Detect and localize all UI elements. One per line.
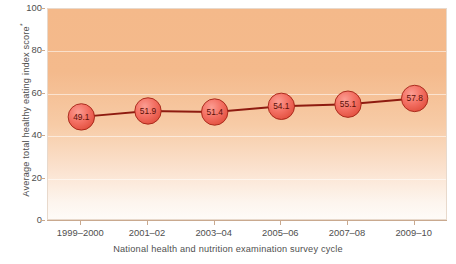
y-tick-label: 80 (16, 45, 42, 54)
x-tick-mark (147, 220, 148, 225)
y-tick-label: 0 (16, 215, 42, 224)
y-tick-mark (41, 50, 45, 51)
plot-area: 49.151.951.454.155.157.8 (47, 8, 447, 220)
data-point-label: 54.1 (273, 101, 290, 111)
y-tick-label: 100 (16, 3, 42, 12)
line-chart: Average total healthy eating index score… (0, 0, 456, 264)
data-point[interactable]: 49.1 (68, 104, 94, 130)
data-point-label: 57.8 (407, 93, 424, 103)
x-tick-mark (214, 220, 215, 225)
series-line (81, 98, 414, 116)
y-tick-mark (41, 8, 45, 9)
y-tick-mark (41, 93, 45, 94)
y-tick-mark (41, 220, 45, 221)
x-axis-title: National health and nutrition examinatio… (0, 244, 456, 254)
y-tick-mark (41, 135, 45, 136)
x-tick-mark (414, 220, 415, 225)
data-point[interactable]: 57.8 (401, 85, 427, 111)
data-point[interactable]: 55.1 (335, 91, 361, 117)
y-tick-label: 60 (16, 88, 42, 97)
data-point-label: 51.9 (140, 106, 157, 116)
data-point[interactable]: 51.9 (135, 98, 161, 124)
y-tick-label: 40 (16, 130, 42, 139)
x-tick-mark (347, 220, 348, 225)
x-tick-mark (280, 220, 281, 225)
data-point[interactable]: 51.4 (201, 99, 227, 125)
x-axis-line (47, 220, 447, 221)
y-tick-label: 20 (16, 173, 42, 182)
data-series-layer: 49.151.951.454.155.157.8 (48, 9, 448, 221)
y-tick-mark (41, 178, 45, 179)
y-axis-ticks: 020406080100 (14, 0, 42, 264)
data-point[interactable]: 54.1 (268, 93, 294, 119)
data-point-label: 55.1 (340, 99, 357, 109)
x-tick-label: 2009–10 (374, 227, 454, 238)
x-tick-mark (80, 220, 81, 225)
data-point-label: 51.4 (207, 107, 224, 117)
data-point-label: 49.1 (73, 112, 90, 122)
